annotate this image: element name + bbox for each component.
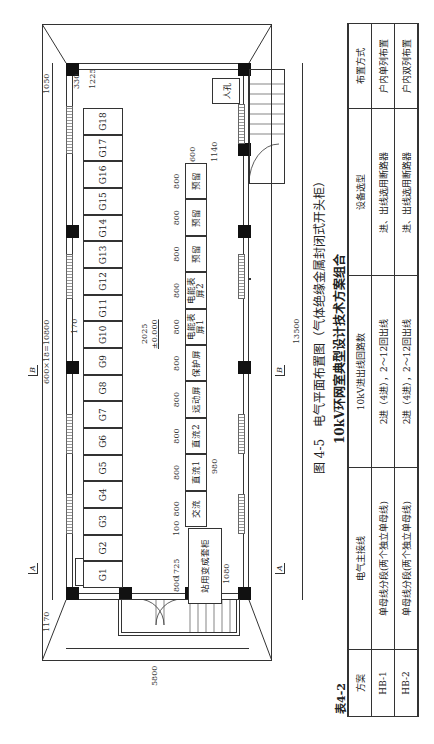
dim-line-total: [302, 63, 303, 600]
door-swing: [118, 599, 240, 636]
column: [238, 361, 251, 374]
dim-1080: 1080: [222, 564, 231, 584]
dim-line: [52, 63, 53, 108]
dim-cab: 800: [172, 272, 181, 308]
manhole-right: 人孔: [212, 78, 240, 104]
dim-800: 800: [172, 577, 181, 592]
cabinet-g3: G3: [83, 508, 123, 535]
cell: HB-2: [395, 650, 419, 717]
dim-cab: 800: [172, 345, 181, 381]
dim-cab: 800: [172, 454, 181, 490]
cabinet-g16: G16: [83, 162, 123, 189]
dim-total-length: 13500: [292, 319, 301, 344]
dim-cab: 800: [172, 418, 181, 454]
dim-1225: 1225: [88, 69, 97, 89]
dim-cabinet-row: 600×18=10800: [42, 320, 51, 384]
dim-980: 980: [210, 459, 219, 474]
dim-1140: 1140: [210, 142, 219, 162]
section-mark-a: A: [28, 563, 38, 574]
dim-cab: 800: [172, 163, 181, 199]
cabinet-protection: 保护屏: [185, 345, 207, 381]
column: [66, 225, 79, 238]
column: [238, 225, 251, 238]
cabinet-g1: G1: [83, 561, 123, 588]
secondary-cabinet-row: 交流 直流1 直流2 远动屏 保护屏 电能表屏1 电能表屏2 预留 预留 预留: [185, 163, 207, 527]
dim-line-width: [66, 648, 249, 649]
cabinet-telecontrol: 远动屏: [185, 381, 207, 417]
figure-caption: 图 4-5 电气平面布置图（气体绝缘金属封闭式开头柜）: [310, 175, 327, 474]
section-mark-b: B: [275, 365, 285, 376]
cabinet-g8: G8: [83, 375, 123, 402]
dim-cab: 800: [172, 381, 181, 417]
column: [66, 361, 79, 374]
dim-600: 600: [188, 147, 197, 162]
cabinet-g2: G2: [83, 535, 123, 562]
station-transformer-cabinet: 站用变成套柜: [188, 528, 222, 604]
cabinet-g14: G14: [83, 215, 123, 242]
window: [238, 104, 245, 144]
window: [238, 494, 245, 534]
cabinet-dc1: 直流1: [185, 454, 207, 490]
cabinet-g17: G17: [83, 135, 123, 162]
header-circuits: 10kV进出线回路数: [348, 276, 372, 468]
cabinet-g11: G11: [83, 295, 123, 322]
cell: 2进（4进），2～12回出线: [395, 276, 419, 468]
section-mark-a: A: [275, 563, 285, 574]
cell: 进、出线选用断路器: [395, 109, 419, 276]
cell: HB-1: [372, 650, 395, 717]
rotated-page: 人孔 人孔 G1 G2 G3 G4 G5 G6 G7 G8 G9 G10 G11…: [0, 0, 434, 744]
cabinet-dc2: 直流2: [185, 418, 207, 454]
dim-line: [52, 108, 53, 588]
dim-cab: 800: [172, 199, 181, 235]
table-row: HB-2 单母线分段(两个独立单母线) 2进（4进），2～12回出线 进、出线选…: [395, 24, 419, 717]
cabinet-g18: G18: [83, 108, 123, 135]
dim-width: 5800: [150, 666, 159, 686]
table-number: 表4-2: [332, 683, 348, 714]
cabinet-g6: G6: [83, 428, 123, 455]
cabinet-g15: G15: [83, 188, 123, 215]
dim-330: 330: [72, 74, 81, 89]
manhole-label: 人孔: [221, 83, 232, 99]
table-header-row: 方案 电气主接线 10kV进出线回路数 设备选型 布置方式: [348, 24, 372, 717]
cabinet-reserved: 预留: [185, 236, 207, 272]
scheme-table: 方案 电气主接线 10kV进出线回路数 设备选型 布置方式 HB-1 单母线分段…: [347, 23, 419, 717]
cell: 单母线分段(两个独立单母线): [395, 468, 419, 650]
header-main-wiring: 电气主接线: [348, 468, 372, 650]
window: [66, 106, 73, 154]
section-mark-b: B: [28, 365, 38, 376]
dim-left-end: 1170: [42, 612, 51, 632]
dim-line: [52, 588, 53, 600]
cell: 户内双列布置: [395, 24, 419, 109]
header-scheme: 方案: [348, 650, 372, 717]
secondary-dim-row: 800 800 800 800 800 800 800 800 800 800: [172, 163, 181, 527]
cell: 单母线分段(两个独立单母线): [372, 468, 395, 650]
window: [238, 414, 245, 454]
right-entrance-detail: [249, 69, 285, 184]
cabinet-g13: G13: [83, 241, 123, 268]
cabinet-g7: G7: [83, 401, 123, 428]
cabinet-ac: 交流: [185, 491, 207, 527]
elevation-mark: ±0.000: [150, 319, 159, 349]
window: [238, 254, 245, 299]
cabinet-g9: G9: [83, 348, 123, 375]
dim-cab: 800: [172, 491, 181, 527]
cabinet-g4: G4: [83, 481, 123, 508]
main-cabinet-row: G1 G2 G3 G4 G5 G6 G7 G8 G9 G10 G11 G12 G…: [83, 108, 123, 588]
cabinet-g10: G10: [83, 321, 123, 348]
table-caption: 10kV环网室典型设计技术方案组合: [330, 254, 347, 444]
cabinet-g5: G5: [83, 455, 123, 482]
window: [66, 494, 73, 534]
cabinet-reserved: 预留: [185, 199, 207, 235]
window: [66, 414, 73, 454]
cell: 进、出线选用断路器: [372, 109, 395, 276]
cabinet-meter-2: 电能表屏2: [185, 272, 207, 308]
header-equipment: 设备选型: [348, 109, 372, 276]
dim-2025: 2025: [140, 324, 149, 344]
cabinet-meter-1: 电能表屏1: [185, 309, 207, 345]
column: [66, 587, 79, 600]
window: [66, 254, 73, 299]
table-row: HB-1 单母线分段(两个独立单母线) 2进（4进），2～12回出线 进、出线选…: [372, 24, 395, 717]
cabinet-reserved: 预留: [185, 163, 207, 199]
cell: 户内单列布置: [372, 24, 395, 109]
header-layout: 布置方式: [348, 24, 372, 109]
